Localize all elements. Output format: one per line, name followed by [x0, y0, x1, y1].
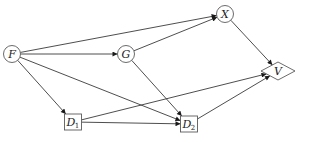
node-label: X — [220, 8, 230, 21]
node-x: X — [217, 6, 234, 23]
influence-diagram: FGXVD1D2 — [0, 0, 321, 143]
edge-g-to-d2 — [132, 60, 182, 116]
edge-f-to-d2 — [20, 57, 181, 121]
node-label: G — [122, 48, 131, 61]
edge-f-to-d1 — [18, 60, 66, 114]
edge-x-to-v — [231, 20, 273, 65]
node-label: F — [7, 48, 16, 61]
node-label: V — [274, 65, 283, 78]
nodes-layer: FGXVD1D2 — [4, 6, 296, 133]
node-v: V — [261, 62, 295, 80]
node-d2: D2 — [181, 116, 198, 132]
node-subscript: 2 — [191, 124, 195, 132]
node-d1: D1 — [65, 114, 82, 130]
node-g: G — [118, 46, 135, 63]
edges-layer — [18, 16, 273, 124]
edge-d1-to-d2 — [82, 122, 181, 124]
node-f: F — [4, 46, 21, 63]
edge-d1-to-v — [82, 74, 267, 120]
edge-f-to-x — [20, 16, 216, 53]
edge-g-to-x — [134, 17, 217, 51]
node-subscript: 1 — [75, 122, 79, 130]
